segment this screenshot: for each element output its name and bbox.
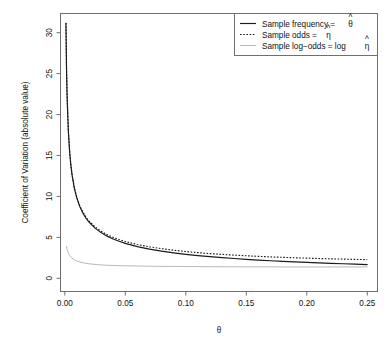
legend-hat-accent-eta-log: ^: [365, 35, 369, 44]
y-tick-label: 15: [45, 151, 54, 161]
legend-hat-accent-theta: ^: [349, 13, 353, 22]
chart-figure: 0 5 10 15 20 25 30 Coefficient of Variat…: [0, 0, 391, 349]
y-tick-label: 5: [45, 235, 54, 240]
x-tick-label: 0.15: [238, 299, 254, 308]
y-tick-label: 20: [45, 110, 54, 120]
legend-label-sample-log-odds: Sample log−odds = log: [262, 42, 346, 51]
x-tick-label: 0.00: [57, 299, 73, 308]
legend-hat-accent-eta: ^: [327, 24, 331, 33]
x-axis-title: θ: [217, 326, 222, 335]
y-tick-label: 30: [45, 28, 54, 38]
x-tick-label: 0.20: [299, 299, 315, 308]
y-tick-label: 10: [45, 191, 54, 201]
x-tick-label: 0.25: [359, 299, 375, 308]
legend-label-sample-odds: Sample odds =: [262, 31, 317, 40]
x-tick-label: 0.10: [178, 299, 194, 308]
y-tick-label: 0: [45, 276, 54, 281]
coefficient-of-variation-plot: 0 5 10 15 20 25 30 Coefficient of Variat…: [0, 0, 391, 349]
legend: Sample frequency = θ ^ Sample odds = η ^…: [235, 13, 378, 55]
x-tick-label: 0.05: [117, 299, 133, 308]
y-axis-title: Coefficient of Variation (absolute value…: [21, 81, 30, 223]
y-tick-label: 25: [45, 69, 54, 79]
legend-label-sample-frequency: Sample frequency =: [262, 20, 335, 29]
